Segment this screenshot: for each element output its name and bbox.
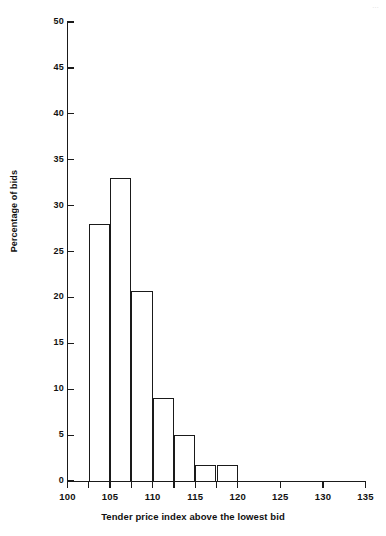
x-axis-title: Tender price index above the lowest bid [0,511,386,522]
x-axis-tick [237,482,238,488]
y-axis-tick-label: 40 [24,109,64,118]
y-axis-tick-label: 30 [24,201,64,210]
histogram-bar [195,465,216,481]
x-axis-tick-label: 105 [87,492,133,502]
histogram-bar [110,178,131,482]
x-axis-tick [109,482,110,488]
y-axis-tick-label: 10 [24,384,64,393]
x-axis-minor-tick [88,482,89,488]
x-axis-minor-tick [173,482,174,488]
histogram-bar [89,224,110,482]
y-axis-tick-label: 35 [24,155,64,164]
y-axis-tick [68,113,74,114]
plot-area: 05101520253035404550 1001051101151201251… [0,0,386,536]
x-axis-tick-label: 110 [130,492,176,502]
y-axis-tick-label: 20 [24,292,64,301]
x-axis-tick-label: 115 [172,492,218,502]
x-axis-tick [195,482,196,488]
y-axis-tick-label: 5 [24,430,64,439]
y-axis-tick [68,159,74,160]
x-axis-tick [365,482,366,488]
y-axis-tick-label: 25 [24,247,64,256]
y-axis-tick [68,297,74,298]
y-axis-title: Percentage of bids [9,170,25,252]
x-axis-tick-label: 135 [343,492,386,502]
x-axis-minor-tick [216,482,217,488]
x-axis-tick [152,482,153,488]
y-axis-tick [68,389,74,390]
x-axis-tick [280,482,281,488]
y-axis-tick-label: 15 [24,338,64,347]
y-axis-tick [68,67,74,68]
x-axis-tick [322,482,323,488]
y-axis-tick [68,343,74,344]
histogram-figure: … 05101520253035404550 10010511011512012… [0,0,386,536]
x-axis-tick-label: 100 [45,492,91,502]
y-axis-tick [68,435,74,436]
histogram-bar [217,465,238,481]
y-axis-tick-label: 50 [24,17,64,26]
y-axis-tick [68,251,74,252]
y-axis-tick [68,21,74,22]
x-axis-tick-label: 130 [300,492,346,502]
histogram-bar [174,435,195,482]
y-axis-tick-label: 45 [24,63,64,72]
histogram-bar [153,398,174,481]
y-axis-tick [68,205,74,206]
x-axis-minor-tick [131,482,132,488]
x-axis-tick-label: 125 [257,492,303,502]
x-axis-tick [67,482,68,488]
histogram-bar [131,291,152,482]
y-axis-tick-label: 0 [24,476,64,485]
y-axis-tick [68,480,74,481]
x-axis-tick-label: 120 [215,492,261,502]
